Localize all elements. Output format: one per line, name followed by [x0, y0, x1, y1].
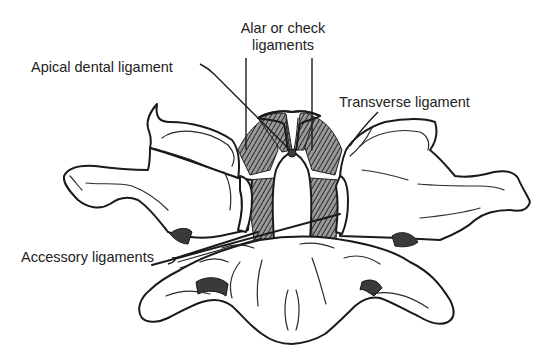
label-transverse-ligament: Transverse ligament [339, 94, 470, 111]
label-alar-line1: Alar or check [228, 20, 338, 37]
label-apical-dental-ligament: Apical dental ligament [31, 59, 173, 76]
atlas-right [336, 119, 530, 240]
label-alar-line2: ligaments [228, 37, 338, 54]
apical-ligament-attachment [288, 149, 296, 157]
axis-vertebra [139, 228, 453, 344]
atlas-left [64, 104, 252, 238]
label-accessory-ligaments: Accessory ligaments [21, 249, 154, 266]
ligament-diagram: Alar or check ligaments Apical dental li… [0, 0, 545, 356]
label-alar-ligaments: Alar or check ligaments [228, 20, 338, 54]
